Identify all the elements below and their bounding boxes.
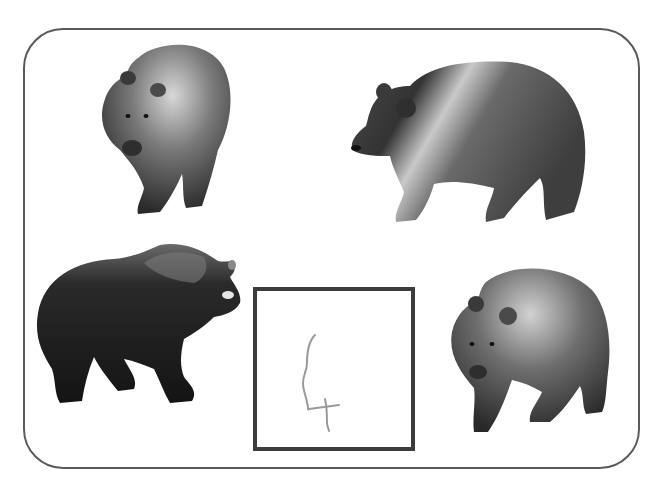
bear-icon <box>98 38 234 218</box>
bear-icon <box>446 262 614 440</box>
bear-icon <box>34 243 244 411</box>
handwritten-four-stroke <box>257 291 411 447</box>
answer-box[interactable]: 4 <box>253 287 415 451</box>
bear-icon <box>350 52 588 226</box>
bear-image-top-left: bear <box>98 38 234 218</box>
bear-image-bottom-right: bear <box>446 262 614 440</box>
bear-image-top-right: bear <box>350 52 588 226</box>
bear-image-bottom-left: bear <box>34 243 244 411</box>
